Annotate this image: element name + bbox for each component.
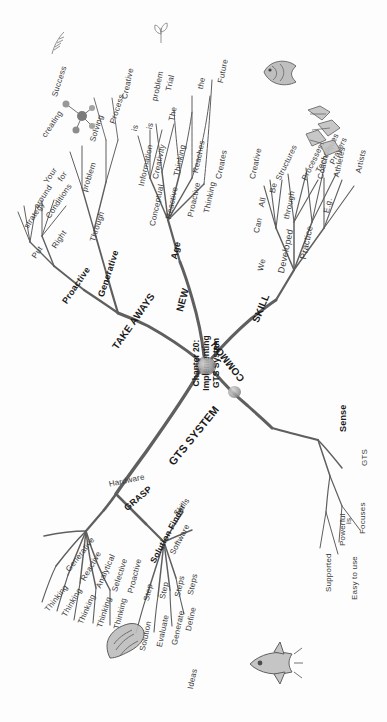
- common-node-blob: [228, 386, 241, 398]
- feather-sketch: [48, 30, 68, 56]
- plant-sketch: [152, 20, 170, 44]
- hand-sketch: [100, 616, 148, 662]
- molecule-sketch: [58, 96, 98, 136]
- center-node-blob: [198, 358, 215, 374]
- rocket-sketch: [244, 640, 304, 684]
- mindmap-canvas: Chapter 20: Implementing GTS System TAKE…: [0, 0, 387, 722]
- fish-sketch: [260, 52, 302, 90]
- gear-cluster-sketch: [300, 100, 346, 160]
